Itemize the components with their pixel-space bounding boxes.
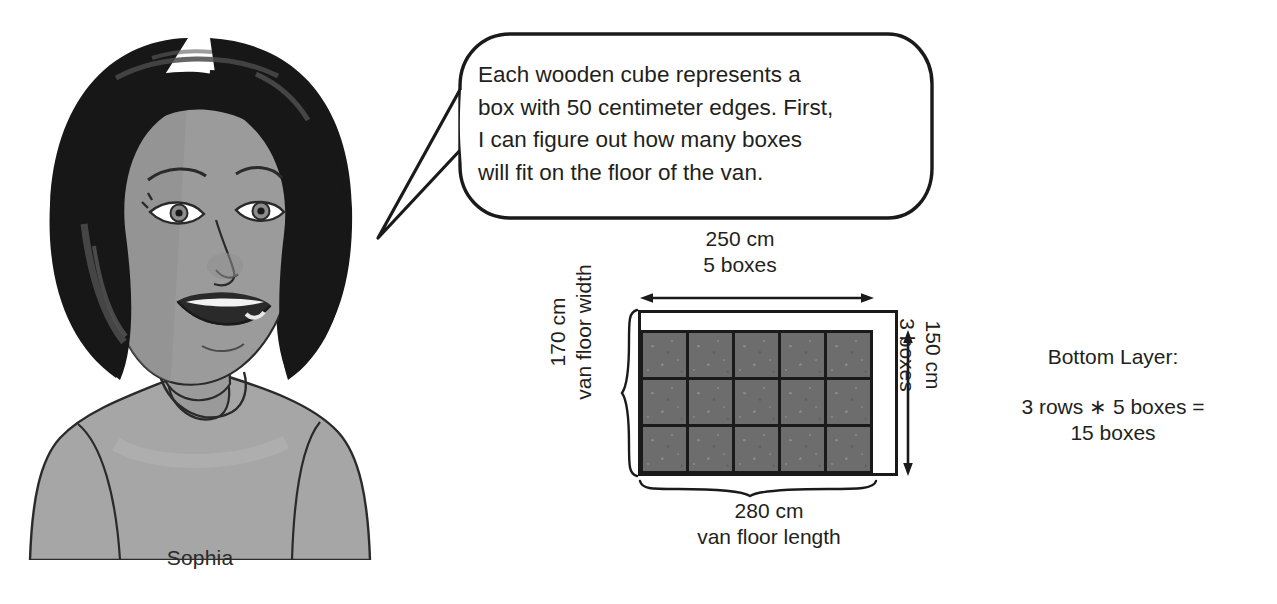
- box-cell: [643, 380, 686, 424]
- box-cell: [781, 380, 824, 424]
- left-curly-brace: [620, 308, 640, 478]
- speech-bubble-tail: [378, 68, 472, 238]
- left-dimension-label: 170 cm van floor width: [545, 244, 597, 420]
- box-cell: [827, 427, 870, 471]
- character-illustration-sophia: [20, 14, 380, 560]
- speech-bubble-text: Each wooden cube represents a box with 5…: [478, 59, 898, 189]
- calculation-title: Bottom Layer:: [968, 344, 1258, 370]
- character-name-label: Sophia: [20, 546, 380, 570]
- worksheet-canvas: Sophia Each wooden cube represents a box…: [0, 0, 1277, 604]
- box-cell: [781, 427, 824, 471]
- box-cell: [643, 333, 686, 377]
- box-cell: [735, 427, 778, 471]
- calculation-expression: 3 rows ∗ 5 boxes = 15 boxes: [968, 394, 1258, 446]
- top-dimension-arrow: [640, 292, 874, 304]
- right-dimension-label: 150 cm 3 boxes: [894, 281, 946, 429]
- box-grid: [640, 330, 873, 474]
- box-cell: [689, 380, 732, 424]
- bottom-curly-brace: [638, 478, 878, 498]
- bottom-dimension-label: 280 cm van floor length: [638, 498, 900, 550]
- box-cell: [827, 333, 870, 377]
- box-cell: [689, 427, 732, 471]
- box-cell: [735, 333, 778, 377]
- van-floor-diagram: 250 cm 5 boxes: [520, 226, 950, 556]
- box-cell: [781, 333, 824, 377]
- box-cell: [735, 380, 778, 424]
- speech-bubble: Each wooden cube represents a box with 5…: [360, 26, 940, 251]
- box-cell: [643, 427, 686, 471]
- box-cell: [689, 333, 732, 377]
- box-cell: [827, 380, 870, 424]
- top-dimension-label: 250 cm 5 boxes: [580, 226, 900, 278]
- calculation-block: Bottom Layer: 3 rows ∗ 5 boxes = 15 boxe…: [968, 344, 1258, 446]
